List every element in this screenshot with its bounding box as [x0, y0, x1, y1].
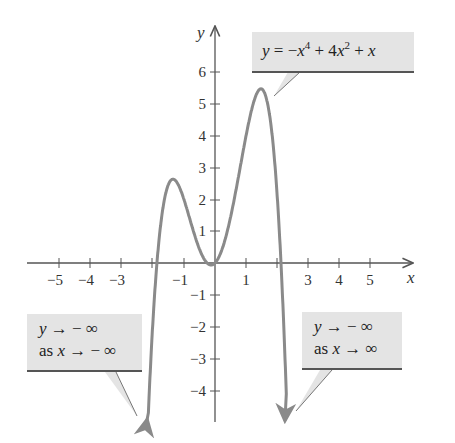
svg-text:4: 4 — [335, 272, 343, 288]
svg-text:1: 1 — [242, 272, 250, 288]
left-end-behavior-callout: y → − ∞ as x → − ∞ — [27, 314, 142, 372]
equation-callout: y = −x4 + 4x2 + x — [252, 32, 414, 73]
svg-text:1: 1 — [199, 223, 207, 239]
svg-text:5: 5 — [366, 272, 374, 288]
svg-text:6: 6 — [199, 64, 207, 80]
svg-text:3: 3 — [304, 272, 312, 288]
svg-text:−4: −4 — [78, 272, 94, 288]
svg-text:5: 5 — [199, 96, 207, 112]
svg-text:−3: −3 — [190, 351, 206, 367]
svg-text:2: 2 — [199, 192, 207, 208]
left-callout-pointer-line — [116, 372, 137, 416]
right-callout-pointer-line — [296, 370, 332, 411]
right-end-behavior-callout: y → − ∞ as x → ∞ — [302, 312, 402, 370]
x-axis-label: x — [406, 268, 415, 287]
function-curve — [147, 89, 286, 420]
svg-text:−3: −3 — [109, 272, 125, 288]
svg-text:−1: −1 — [190, 287, 206, 303]
svg-text:−2: −2 — [190, 319, 206, 335]
y-axis-label: y — [195, 23, 205, 42]
svg-text:4: 4 — [199, 128, 207, 144]
svg-text:3: 3 — [199, 160, 207, 176]
svg-text:−4: −4 — [190, 383, 206, 399]
x-tick-labels: −5 −4 −3 −1 1 3 4 5 — [47, 272, 374, 288]
left-callout-pointer — [105, 372, 137, 416]
svg-text:−1: −1 — [172, 272, 188, 288]
svg-text:−5: −5 — [47, 272, 63, 288]
